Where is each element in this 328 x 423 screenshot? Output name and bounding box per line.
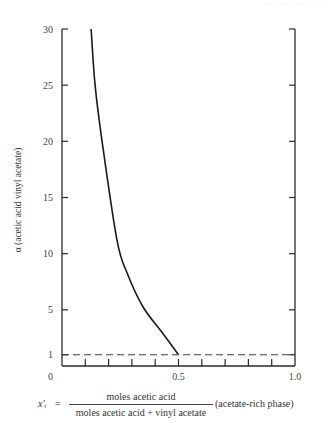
y-tick-label: 0 <box>48 371 53 382</box>
alpha-curve <box>91 29 178 355</box>
y-axis-tick-labels: 0151015202530 <box>43 24 53 383</box>
y-tick-label: 1 <box>48 349 53 360</box>
x-tick-label: 1.0 <box>289 371 302 382</box>
x-axis-fraction: moles acetic acid moles acetic acid + vi… <box>69 390 213 419</box>
y-axis-ticks <box>62 29 295 355</box>
y-tick-label: 25 <box>43 80 53 91</box>
x-axis-label: x'ᵢ = moles acetic acid moles acetic aci… <box>38 390 328 420</box>
y-tick-label: 20 <box>43 136 53 147</box>
x-axis-ticks <box>85 359 271 366</box>
y-tick-label: 15 <box>43 192 53 203</box>
x-axis-tick-labels: 0.51.0 <box>172 371 301 382</box>
y-tick-label: 5 <box>48 304 53 315</box>
x-tick-label: 0.5 <box>172 371 185 382</box>
chart: 0151015202530 0.51.0 α (acetic acid viny… <box>0 0 328 423</box>
x-axis-symbol: x'ᵢ <box>38 398 46 409</box>
data-series <box>62 29 295 355</box>
fraction-denominator: moles acetic acid + vinyl acetate <box>69 406 213 419</box>
x-axis-equals: = <box>55 398 61 409</box>
y-axis-label: α (acetic acid vinyl acetate) <box>13 148 24 253</box>
fraction-bar <box>69 404 213 405</box>
y-tick-label: 10 <box>43 248 53 259</box>
plot-frame <box>62 29 295 366</box>
y-tick-label: 30 <box>43 24 53 35</box>
x-axis-phase-note: (acetate-rich phase) <box>215 398 294 409</box>
fraction-numerator: moles acetic acid <box>69 390 213 403</box>
